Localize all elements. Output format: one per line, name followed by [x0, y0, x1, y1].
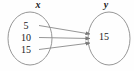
domain-set-label: x: [28, 0, 48, 10]
mapping-arrow-15-to-15: [39, 43, 90, 50]
domain-element-2: 15: [17, 45, 35, 55]
mapping-diagram-figure: x y 5 10 15 15: [0, 0, 134, 71]
domain-element-1: 10: [17, 33, 35, 43]
domain-element-0: 5: [17, 21, 35, 31]
mapping-arrow-10-to-15: [39, 38, 90, 39]
range-set-label: y: [96, 0, 116, 10]
range-element-0: 15: [99, 32, 117, 42]
mapping-arrow-5-to-15: [39, 26, 90, 35]
